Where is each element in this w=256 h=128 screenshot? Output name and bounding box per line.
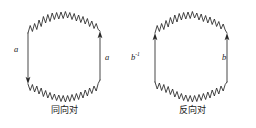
figure-root: a a 同向对 b-1 b 反向对: [0, 0, 256, 128]
edge-label-b-inverse: b-1: [131, 53, 140, 62]
edge-label-a-right: a: [105, 53, 109, 62]
edge-label-b-right: b: [222, 53, 226, 62]
bottom-wavy-arc-left-panel: [28, 80, 100, 102]
panel-opposite-direction: [153, 12, 230, 103]
caption-same-direction-pair: 同向对: [0, 106, 128, 115]
edge-label-a-left: a: [14, 45, 18, 54]
top-wavy-arc-left-panel: [28, 12, 100, 34]
bottom-wavy-arc-right-panel: [155, 82, 227, 102]
caption-opposite-direction-pair: 反向对: [128, 106, 256, 115]
edge-label-b-inverse-exponent: -1: [135, 51, 140, 57]
top-wavy-arc-right-panel: [155, 12, 227, 34]
panel-same-direction: [26, 12, 103, 103]
